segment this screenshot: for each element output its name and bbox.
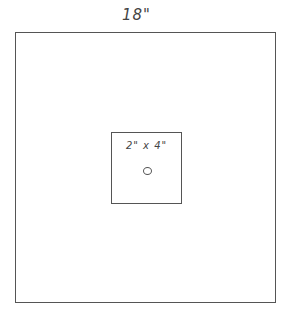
- inner-rectangle-2x4: 2" x 4": [111, 132, 182, 204]
- inner-dimension-label: 2" x 4": [112, 140, 181, 151]
- outer-dimension-label: 18": [122, 6, 151, 24]
- hole-circle-icon: [143, 167, 152, 175]
